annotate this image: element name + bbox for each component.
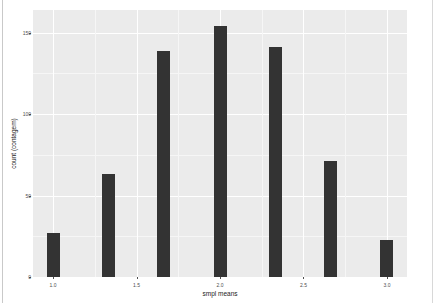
gridline-minor-vertical (178, 10, 179, 277)
bar (47, 233, 60, 277)
gridline-minor-vertical (345, 10, 346, 277)
y-tick-mark (29, 277, 31, 278)
gridline-major-vertical (387, 10, 388, 277)
bar (324, 161, 337, 277)
y-tick-mark (29, 114, 31, 115)
x-tick-label: 1.0 (50, 282, 57, 288)
y-tick-mark (29, 33, 31, 34)
x-axis-title: smpl means (33, 290, 407, 298)
bar (214, 26, 227, 277)
bar (157, 51, 170, 277)
plot-panel (33, 10, 407, 277)
gridline-minor-vertical (262, 10, 263, 277)
x-tick-mark (53, 277, 54, 279)
gridline-major-vertical (137, 10, 138, 277)
y-tick-mark (29, 196, 31, 197)
bar (380, 240, 393, 277)
bar (102, 174, 115, 277)
bar (269, 47, 282, 277)
x-tick-mark (387, 277, 388, 279)
x-tick-label: 2.5 (300, 282, 307, 288)
gridline-major-vertical (303, 10, 304, 277)
x-tick-mark (303, 277, 304, 279)
gridline-minor-vertical (95, 10, 96, 277)
x-tick-label: 1.5 (133, 282, 140, 288)
chart-container: count (contagem) 050100150 1.01.52.02.53… (0, 0, 433, 303)
x-tick-mark (220, 277, 221, 279)
x-tick-label: 3.0 (383, 282, 390, 288)
y-axis-ticks: 050100150 (0, 0, 31, 303)
x-tick-mark (137, 277, 138, 279)
x-tick-label: 2.0 (217, 282, 224, 288)
